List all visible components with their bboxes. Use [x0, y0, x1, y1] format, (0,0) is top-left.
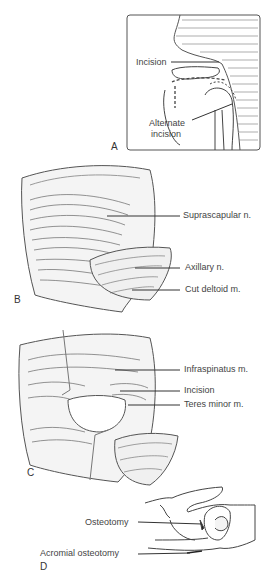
- label-alternate-incision-line1: Alternate: [149, 119, 185, 128]
- panel-b-drawing: [22, 166, 180, 312]
- panel-letter-a: A: [111, 142, 118, 152]
- label-osteotomy: Osteotomy: [85, 518, 129, 527]
- panel-c-drawing: [19, 330, 180, 485]
- label-acromial-osteotomy: Acromial osteotomy: [40, 549, 119, 558]
- label-axillary-nerve: Axillary n.: [185, 263, 224, 272]
- label-incision-c: Incision: [184, 386, 215, 395]
- label-cut-deltoid: Cut deltoid m.: [185, 285, 241, 294]
- panel-a-drawing: [127, 15, 260, 150]
- label-infraspinatus: Infraspinatus m.: [184, 365, 248, 374]
- label-suprascapular-nerve: Suprascapular n.: [183, 211, 251, 220]
- label-teres-minor: Teres minor m.: [184, 400, 244, 409]
- label-incision-a: Incision: [136, 58, 167, 67]
- panel-letter-d: D: [40, 562, 47, 572]
- panel-d-drawing: [138, 487, 255, 554]
- panel-letter-c: C: [27, 468, 34, 478]
- label-alternate-incision-line2: incision: [151, 130, 181, 139]
- panel-letter-b: B: [14, 295, 21, 305]
